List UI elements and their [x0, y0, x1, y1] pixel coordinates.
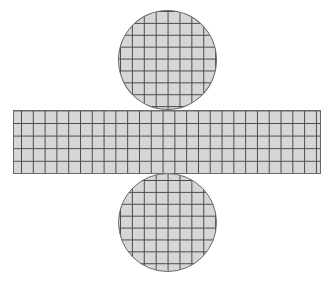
top-circle-base	[118, 10, 217, 110]
lateral-surface-rectangle	[13, 110, 321, 174]
bottom-circle-base	[118, 173, 217, 272]
